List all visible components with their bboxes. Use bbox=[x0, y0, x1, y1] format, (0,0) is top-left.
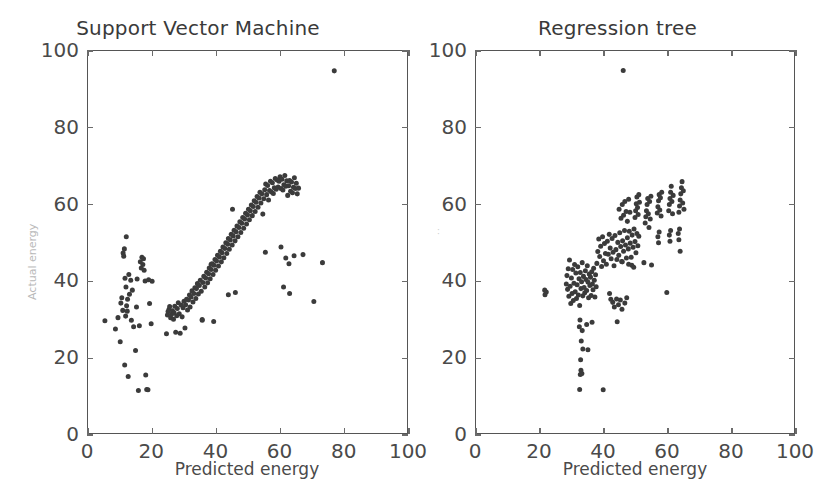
x-tick-mark bbox=[475, 428, 476, 434]
y-tick-mark bbox=[87, 358, 93, 359]
x-tick-label: 20 bbox=[526, 439, 551, 463]
y-tick-mark bbox=[475, 281, 481, 282]
panel-title-tree: Regression tree bbox=[410, 16, 825, 40]
y-tick-mark-right bbox=[402, 127, 408, 128]
y-tick-mark bbox=[475, 50, 481, 51]
scatter-layer-tree bbox=[476, 51, 794, 433]
y-tick-mark-right bbox=[402, 281, 408, 282]
y-tick-mark-right bbox=[789, 358, 795, 359]
y-tick-mark bbox=[475, 358, 481, 359]
scatter-layer-svm bbox=[88, 51, 407, 433]
y-tick-mark-right bbox=[789, 204, 795, 205]
x-tick-label: 60 bbox=[654, 439, 679, 463]
y-tick-mark-right bbox=[402, 434, 408, 435]
y-tick-label: 100 bbox=[25, 38, 79, 62]
y-tick-label: 80 bbox=[413, 115, 467, 139]
scan-artifact-speck: ·· bbox=[437, 228, 439, 236]
x-tick-label: 0 bbox=[469, 439, 482, 463]
scatter-svg-tree bbox=[476, 51, 794, 433]
y-tick-label: 60 bbox=[413, 192, 467, 216]
y-tick-mark-right bbox=[402, 358, 408, 359]
y-tick-mark-right bbox=[402, 50, 408, 51]
y-tick-label: 60 bbox=[25, 192, 79, 216]
x-tick-label: 100 bbox=[776, 439, 814, 463]
x-tick-mark bbox=[795, 428, 796, 434]
x-tick-mark bbox=[280, 428, 281, 434]
y-tick-label: 20 bbox=[25, 345, 79, 369]
panel-title-svm: Support Vector Machine bbox=[0, 16, 408, 40]
x-tick-mark bbox=[87, 428, 88, 434]
x-tick-mark bbox=[667, 428, 668, 434]
panel-regression-tree: Regression tree Predicted energy 0204060… bbox=[420, 0, 835, 504]
y-tick-mark bbox=[87, 434, 93, 435]
y-tick-mark bbox=[87, 50, 93, 51]
x-tick-mark bbox=[344, 428, 345, 434]
y-tick-mark bbox=[475, 204, 481, 205]
x-tick-label: 40 bbox=[590, 439, 615, 463]
x-tick-mark bbox=[216, 428, 217, 434]
x-tick-mark-top bbox=[667, 50, 668, 56]
x-tick-label: 80 bbox=[718, 439, 743, 463]
y-tick-label: 20 bbox=[413, 345, 467, 369]
plot-area-svm bbox=[87, 50, 408, 434]
y-tick-mark-right bbox=[789, 281, 795, 282]
y-tick-mark-right bbox=[789, 50, 795, 51]
panel-support-vector-machine: Support Vector Machine Predicted energy … bbox=[0, 0, 420, 504]
x-tick-mark-top bbox=[731, 50, 732, 56]
plot-area-tree bbox=[475, 50, 795, 434]
x-tick-mark-top bbox=[408, 50, 409, 56]
x-tick-mark-top bbox=[152, 50, 153, 56]
x-axis-label-svm: Predicted energy bbox=[175, 459, 319, 479]
y-tick-mark bbox=[87, 281, 93, 282]
x-tick-label: 60 bbox=[267, 439, 292, 463]
y-tick-label: 80 bbox=[25, 115, 79, 139]
y-tick-label: 40 bbox=[413, 268, 467, 292]
x-tick-label: 20 bbox=[138, 439, 163, 463]
y-tick-mark-right bbox=[789, 434, 795, 435]
x-tick-label: 80 bbox=[331, 439, 356, 463]
y-tick-mark bbox=[475, 434, 481, 435]
x-tick-mark-top bbox=[216, 50, 217, 56]
y-tick-mark-right bbox=[402, 204, 408, 205]
x-tick-mark-top bbox=[603, 50, 604, 56]
figure-canvas: Support Vector Machine Predicted energy … bbox=[0, 0, 835, 504]
x-axis-label-tree: Predicted energy bbox=[563, 459, 707, 479]
x-tick-mark-top bbox=[539, 50, 540, 56]
x-tick-mark bbox=[731, 428, 732, 434]
x-tick-mark bbox=[603, 428, 604, 434]
y-tick-mark bbox=[87, 204, 93, 205]
y-tick-label: 100 bbox=[413, 38, 467, 62]
y-tick-label: 0 bbox=[413, 422, 467, 446]
x-tick-mark-top bbox=[280, 50, 281, 56]
x-tick-label: 40 bbox=[203, 439, 228, 463]
y-tick-label: 40 bbox=[25, 268, 79, 292]
y-tick-mark-right bbox=[789, 127, 795, 128]
x-tick-mark bbox=[539, 428, 540, 434]
y-tick-mark bbox=[475, 127, 481, 128]
y-tick-label: 0 bbox=[25, 422, 79, 446]
y-tick-mark bbox=[87, 127, 93, 128]
x-tick-label: 0 bbox=[81, 439, 94, 463]
x-tick-mark bbox=[408, 428, 409, 434]
x-tick-mark-top bbox=[344, 50, 345, 56]
x-tick-mark-top bbox=[795, 50, 796, 56]
scatter-svg-svm bbox=[88, 51, 407, 433]
x-tick-mark bbox=[152, 428, 153, 434]
